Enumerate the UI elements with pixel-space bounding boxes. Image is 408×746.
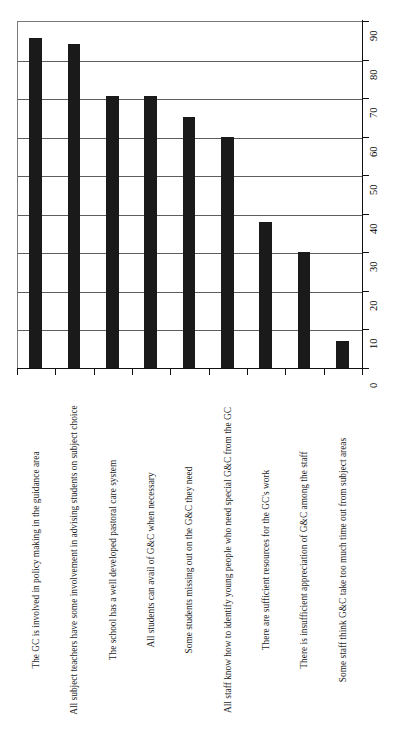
bar	[298, 252, 311, 368]
value-tick-label: 10	[369, 309, 379, 349]
value-tick-60	[362, 137, 369, 138]
category-tick	[94, 368, 95, 375]
bar	[259, 222, 272, 369]
bar	[221, 137, 234, 368]
value-tick-30	[362, 252, 369, 253]
value-tick-label: 20	[369, 271, 379, 311]
bar	[183, 117, 196, 368]
value-tick-70	[362, 98, 369, 99]
category-label: Some staff think G&C take too much time …	[337, 376, 350, 744]
category-tick	[55, 368, 56, 375]
category-tick	[247, 368, 248, 375]
category-axis-line	[17, 368, 363, 369]
category-label: The school has a well developed pastoral…	[107, 376, 120, 744]
category-label: All subject teachers have some involveme…	[68, 376, 81, 744]
category-label: There are sufficient resources for the G…	[260, 376, 273, 744]
value-tick-50	[362, 175, 369, 176]
category-label: There is insufficient appreciation of G&…	[298, 376, 311, 744]
value-tick-0	[362, 368, 369, 369]
value-tick-label: 80	[369, 40, 379, 80]
category-label: All staff know how to identify young peo…	[222, 376, 235, 744]
bar	[336, 341, 349, 368]
value-tick-label: 40	[369, 194, 379, 234]
bar	[68, 44, 81, 368]
category-label: Some students missing out on the G&C the…	[183, 376, 196, 744]
plot-area	[17, 21, 362, 368]
value-tick-20	[362, 291, 369, 292]
value-axis-line	[362, 20, 363, 369]
bar	[106, 96, 119, 368]
category-tick	[362, 368, 363, 375]
value-tick-label: 90	[369, 1, 379, 41]
value-tick-10	[362, 329, 369, 330]
category-tick	[170, 368, 171, 375]
bar	[144, 96, 157, 368]
category-tick	[132, 368, 133, 375]
bar-chart-figure: 0102030405060708090 The GC is involved i…	[0, 0, 408, 746]
value-tick-90	[362, 21, 369, 22]
category-label: The GC is involved in policy making in t…	[30, 376, 43, 744]
value-tick-label: 70	[369, 78, 379, 118]
value-tick-label: 30	[369, 232, 379, 272]
value-tick-label: 0	[369, 348, 379, 388]
category-tick	[324, 368, 325, 375]
bar	[29, 38, 42, 368]
value-tick-40	[362, 214, 369, 215]
value-tick-80	[362, 60, 369, 61]
value-tick-label: 60	[369, 117, 379, 157]
category-tick	[285, 368, 286, 375]
category-tick	[209, 368, 210, 375]
category-tick	[17, 368, 18, 375]
value-tick-label: 50	[369, 155, 379, 195]
category-label: All students can avail of G&C when neces…	[145, 376, 158, 744]
